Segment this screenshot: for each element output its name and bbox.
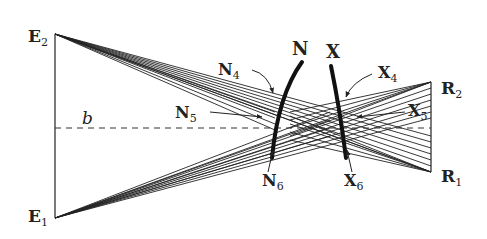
leader-n4 — [252, 70, 273, 93]
label-n4: N4 — [218, 60, 240, 82]
label-e1: E1 — [28, 206, 48, 229]
label-x4: X4 — [378, 63, 397, 85]
label-curve-n: N — [292, 38, 308, 59]
label-r2: R2 — [441, 78, 462, 101]
ray-bundle-r1-spread — [290, 116, 431, 172]
label-b: b — [82, 108, 93, 128]
stereo-ray-diagram: E2 E1 R2 R1 b N X N4 N5 N6 X4 X5 X6 — [0, 0, 487, 239]
label-x5: X5 — [408, 101, 427, 123]
label-e2: E2 — [28, 26, 48, 49]
label-r1: R1 — [441, 166, 462, 189]
label-curve-x: X — [326, 41, 340, 62]
label-n6: N6 — [262, 171, 284, 193]
label-x6: X6 — [344, 171, 363, 193]
label-n5: N5 — [175, 103, 197, 125]
leader-x4 — [346, 74, 372, 97]
